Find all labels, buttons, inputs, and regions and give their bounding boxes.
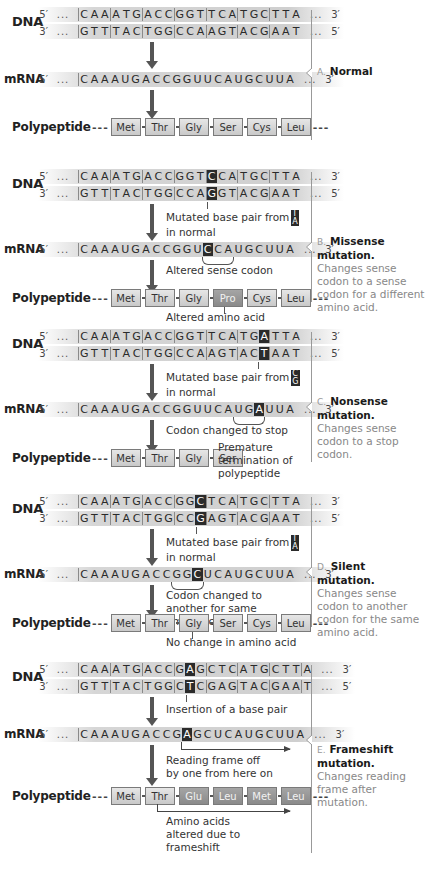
base: U [285,728,295,741]
polypeptide-chain: ---MetThrGlySerCysLeu--- [92,118,329,136]
base: A [89,170,99,183]
dna-mutation-note: Mutated base pair fromCGin normal [166,370,300,399]
base: T [121,330,131,343]
base: T [89,512,99,525]
note-text: Mutated base pair from [166,211,289,223]
chain-dashes-left: --- [92,121,109,134]
dna-mutation-note: Mutated base pair fromTAin normal [166,535,299,564]
dna-top-strand: 5′...CAAATGACCGGTTCATGCTTA...3′ [34,7,345,22]
caption-frameshift: E.Frameshift mutation.Changes reading fr… [317,743,425,809]
base: C [185,25,195,38]
base: C [78,568,89,581]
pointer-tick [186,695,187,702]
base: C [151,568,161,581]
base: A [141,243,151,256]
dna-bottom-strand-right-dots: ... [313,681,343,692]
dna-top-strand-sequence: CAAATGACCGGTTCATGATTA [78,330,301,343]
base: T [237,8,248,21]
caption-body: Changes sense codon to a sense codon for… [317,262,424,313]
dna-top-strand-left-end: 5′ [34,9,48,20]
base: C [185,347,195,360]
mrna-strand-left-end: 5′ [34,244,48,255]
base: T [89,347,99,360]
dna-top-strand-left-end: 5′ [34,331,48,342]
dna-top-strand-sequence: CAAATGACCGGTCCATGCTTA [78,170,301,183]
caption-missense: B.Missense mutation.Changes sense codon … [317,235,425,314]
base: G [153,680,163,693]
base: G [174,170,185,183]
base: A [110,243,120,256]
base: A [142,495,153,508]
section-bracket [311,497,312,627]
base: A [285,568,295,581]
base: C [174,187,185,200]
base: G [130,243,140,256]
chain-dashes-left: --- [92,292,109,305]
caption-letter: A. [317,67,326,77]
base: A [233,728,243,741]
base: A [223,243,233,256]
base: G [174,663,185,676]
base: A [100,568,110,581]
dna-bottom-strand: 3′...GTTTACTGGCCAAGTACGAAT...5′ [34,24,345,39]
amino-acid-leu: Leu [213,787,243,805]
base: U [203,403,213,416]
base: A [269,512,280,525]
caption-normal: A.Normal [317,65,425,79]
base: T [227,347,237,360]
base: U [192,73,202,86]
base: C [151,243,161,256]
amino-acid-leu: Leu [281,614,311,632]
base: A [195,25,205,38]
base: C [264,728,274,741]
base: U [275,403,285,416]
mrna-strand-left-end: 5′ [34,729,48,740]
base: T [291,512,301,525]
amino-acid-leu: Leu [281,787,311,805]
base: A [227,330,237,343]
base: C [78,170,89,183]
base: A [100,728,110,741]
arrow-down-icon [150,697,154,719]
note-text: Mutated base pair from [166,371,289,383]
base: C [206,663,217,676]
base: G [185,330,195,343]
dna-bottom-strand-sequence: GTTTACTGGCCGAGTACGAAT [78,512,301,525]
caption-letter: E. [317,745,326,755]
mrna-strand: 5′...CAAAUGACCGGUUCAUGAUUA...3′ [34,402,339,417]
base: A [227,8,237,21]
base: C [153,663,163,676]
base: A [285,73,295,86]
base: T [291,25,301,38]
base: C [78,243,89,256]
base: C [254,568,264,581]
base: T [237,680,248,693]
dna-mutation-note: Insertion of a base pair [166,703,287,716]
reading-frame-arrow [181,749,290,750]
base: G [163,347,173,360]
base: T [206,8,217,21]
chain-dashes-left: --- [92,617,109,630]
base: T [269,170,280,183]
base: A [291,680,301,693]
base: A [206,512,217,525]
base: C [223,728,233,741]
base: G [244,403,254,416]
base: G [259,25,269,38]
caption-letter: C. [317,397,326,407]
base: G [163,187,173,200]
base: U [275,73,285,86]
dna-bottom-strand-left-dots: ... [48,513,78,524]
base: A [182,728,192,741]
panel-frameshift: DNA5′...CAAATGACCGAGCTCATGCTTA...3′3′...… [0,655,423,873]
arrow-down-icon [150,42,154,62]
base: A [110,663,121,676]
base: C [78,663,89,676]
base: A [89,243,99,256]
base: A [110,73,120,86]
dna-top-strand: 5′...CAAATGACCGAGCTCATGCTTA...3′ [34,662,357,677]
base: A [100,495,110,508]
mrna-strand-left-dots: ... [48,244,78,255]
base: G [185,8,195,21]
dna-bottom-strand-left-dots: ... [48,348,78,359]
